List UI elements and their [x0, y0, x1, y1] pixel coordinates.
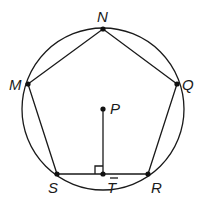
label-t: T — [107, 179, 118, 196]
label-r: R — [151, 179, 162, 196]
point-m — [25, 81, 30, 86]
label-m: M — [9, 76, 22, 93]
point-t — [100, 171, 105, 176]
point-n — [100, 26, 105, 31]
label-q: Q — [182, 76, 194, 93]
label-s: S — [48, 179, 58, 196]
point-r — [145, 171, 150, 176]
geometry-diagram: N M Q P S T R — [0, 0, 208, 201]
label-p: P — [110, 100, 120, 117]
label-n: N — [97, 8, 108, 25]
point-s — [54, 171, 59, 176]
point-q — [174, 81, 179, 86]
point-p — [100, 106, 105, 111]
